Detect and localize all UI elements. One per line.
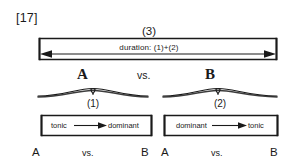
brace-left-label: (1)	[38, 99, 148, 109]
arrow-dominant-to-tonic	[212, 122, 247, 129]
duration-label: duration: (1)+(2)	[0, 44, 298, 52]
brace-right	[163, 89, 277, 97]
progression-left-to: dominant	[108, 122, 139, 130]
progression-right-to: tonic	[248, 122, 264, 130]
arrow-tonic-to-dominant	[74, 122, 107, 129]
bottom-left-row-a: A	[32, 147, 40, 159]
figure-diagram: [17] (3) duration: (1)+(2) A vs. B (1) (…	[0, 0, 298, 167]
progression-left-from: tonic	[51, 122, 67, 130]
brace-left	[38, 89, 148, 97]
bottom-left-row-b: B	[141, 147, 149, 159]
bottom-right-row-operator: vs.	[211, 149, 223, 158]
header-section-a: A	[77, 67, 88, 82]
brace-right-label: (2)	[163, 99, 277, 109]
header-section-b: B	[205, 67, 215, 82]
top-span-label: (3)	[0, 26, 298, 38]
bottom-right-row-b: B	[270, 147, 278, 159]
header-versus-operator: vs.	[137, 70, 150, 81]
figure-number-label: [17]	[16, 12, 38, 25]
progression-right-from: dominant	[176, 122, 207, 130]
bottom-left-row-operator: vs.	[82, 149, 94, 158]
bottom-right-row-a: A	[161, 147, 169, 159]
